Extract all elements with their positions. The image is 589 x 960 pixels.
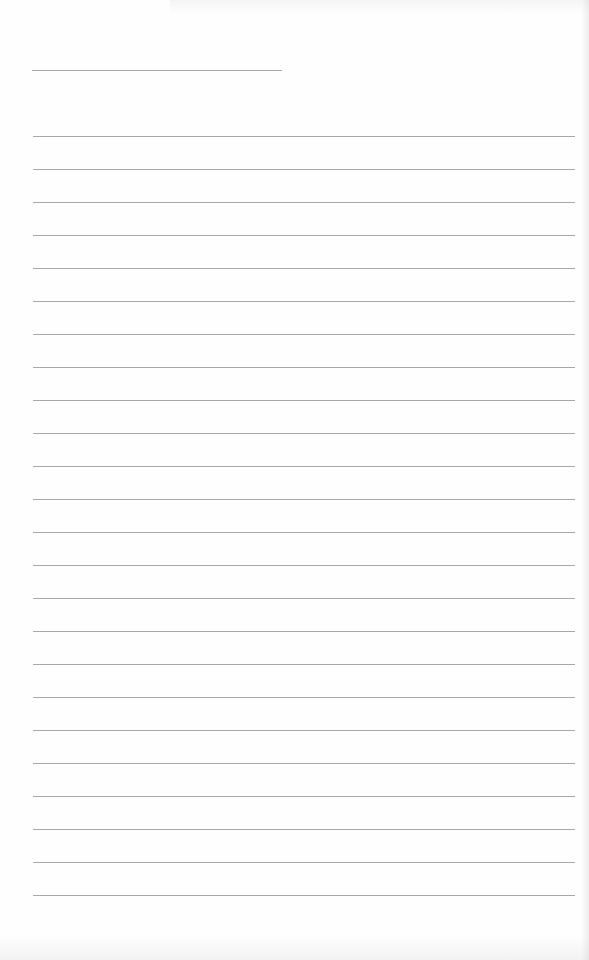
ruled-line [33, 400, 575, 401]
ruled-line [33, 796, 575, 797]
ruled-line [33, 499, 575, 500]
ruled-line [33, 532, 575, 533]
ruled-line [33, 367, 575, 368]
ruled-line [33, 895, 575, 896]
ruled-line [33, 664, 575, 665]
ruled-line [33, 235, 575, 236]
ruled-line [33, 301, 575, 302]
ruled-line [33, 862, 575, 863]
page-shadow-bottom [0, 936, 589, 960]
notebook-page [0, 0, 589, 960]
ruled-line [33, 763, 575, 764]
ruled-line [33, 631, 575, 632]
page-shadow-right [581, 0, 589, 960]
date-line [32, 70, 282, 71]
ruled-line [33, 697, 575, 698]
ruled-line [33, 730, 575, 731]
ruled-line [33, 829, 575, 830]
ruled-line [33, 433, 575, 434]
ruled-line [33, 202, 575, 203]
ruled-line [33, 598, 575, 599]
page-shadow-top [170, 0, 589, 14]
ruled-line [33, 268, 575, 269]
ruled-line [33, 565, 575, 566]
ruled-line [33, 169, 575, 170]
ruled-line [33, 466, 575, 467]
ruled-line [33, 136, 575, 137]
ruled-line [33, 334, 575, 335]
